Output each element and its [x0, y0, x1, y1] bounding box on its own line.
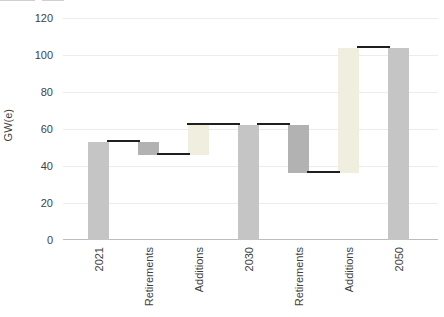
plot-area: [63, 18, 438, 240]
bar-additions-increase: [338, 48, 359, 174]
x-category-label-retirements: Retirements: [142, 247, 156, 306]
y-tick-label-80: 80: [13, 86, 53, 98]
connector-line: [107, 140, 140, 142]
x-category-label-additions: Additions: [342, 247, 356, 292]
y-tick-label-0: 0: [13, 234, 53, 246]
y-tick-label-20: 20: [13, 197, 53, 209]
x-category-label-retirements: Retirements: [292, 247, 306, 306]
x-category-label-2030: 2030: [242, 247, 256, 271]
gridline-100: [63, 55, 438, 56]
x-category-label-additions: Additions: [192, 247, 206, 292]
connector-line: [157, 153, 190, 155]
y-tick-label-120: 120: [13, 12, 53, 24]
chart: GW(e) 0204060801001202021RetirementsAddi…: [0, 0, 444, 317]
connector-line: [257, 123, 290, 125]
gridline-80: [63, 92, 438, 93]
bar-retirements-decrease: [288, 125, 309, 173]
bar-retirements-decrease: [138, 142, 159, 155]
x-category-label-2021: 2021: [92, 247, 106, 271]
y-tick-label-100: 100: [13, 49, 53, 61]
gridline-120: [63, 18, 438, 19]
x-category-label-2050: 2050: [392, 247, 406, 271]
bar-2030-total: [238, 125, 259, 240]
connector-line: [357, 46, 390, 48]
screenshot-edge-artifact: [42, 0, 64, 1]
bar-2021-total: [88, 142, 109, 240]
connector-line: [307, 171, 340, 173]
connector-line: [187, 123, 240, 125]
screenshot-edge-artifact: [0, 0, 35, 1]
bar-additions-increase: [188, 125, 209, 155]
bar-2050-total: [388, 48, 409, 240]
y-tick-label-40: 40: [13, 160, 53, 172]
y-tick-label-60: 60: [13, 123, 53, 135]
